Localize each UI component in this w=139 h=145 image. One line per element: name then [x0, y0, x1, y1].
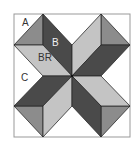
label-A: A	[22, 17, 29, 28]
quilt-block-diagram: A B BR C	[0, 0, 139, 145]
label-C: C	[21, 72, 28, 83]
center-point	[71, 75, 74, 78]
label-BR: BR	[38, 52, 52, 63]
label-B: B	[52, 37, 59, 48]
